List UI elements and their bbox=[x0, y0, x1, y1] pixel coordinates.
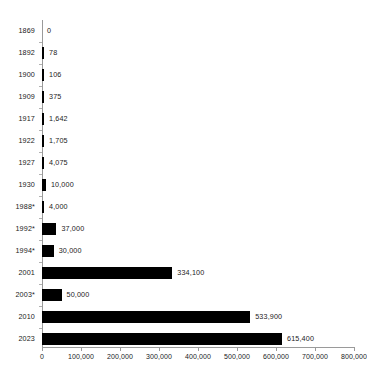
bar-value-label: 1,705 bbox=[49, 130, 68, 152]
x-axis-tick bbox=[159, 347, 160, 351]
bar-row: 2003*50,000 bbox=[42, 284, 354, 306]
category-label: 1869 bbox=[18, 20, 35, 42]
x-axis-tick bbox=[237, 347, 238, 351]
bar-row: 1992*37,000 bbox=[42, 218, 354, 240]
x-axis-tick bbox=[354, 347, 355, 351]
x-axis-tick-label: 100,000 bbox=[68, 353, 94, 360]
bar bbox=[42, 245, 54, 257]
x-axis-tick bbox=[120, 347, 121, 351]
x-axis-tick bbox=[276, 347, 277, 351]
bar bbox=[42, 311, 250, 323]
y-axis-tick bbox=[39, 284, 42, 285]
x-axis-tick-label: 200,000 bbox=[107, 353, 133, 360]
bar-row: 18690 bbox=[42, 20, 354, 42]
bar-value-label: 375 bbox=[49, 86, 61, 108]
bar-value-label: 0 bbox=[47, 20, 51, 42]
bar bbox=[42, 113, 44, 125]
x-axis-tick-label: 0 bbox=[40, 353, 44, 360]
bar-row: 2001334,100 bbox=[42, 262, 354, 284]
bar-row: 19171,642 bbox=[42, 108, 354, 130]
y-axis-tick bbox=[39, 130, 42, 131]
bar-value-label: 106 bbox=[49, 64, 61, 86]
x-axis-tick bbox=[81, 347, 82, 351]
x-axis-tick-label: 500,000 bbox=[224, 353, 250, 360]
category-label: 2010 bbox=[18, 306, 35, 328]
x-axis-tick-label: 600,000 bbox=[263, 353, 289, 360]
bar-value-label: 533,900 bbox=[255, 306, 282, 328]
category-label: 1922 bbox=[18, 130, 35, 152]
bar-value-label: 37,000 bbox=[61, 218, 84, 240]
category-label: 2023 bbox=[18, 328, 35, 350]
bar bbox=[42, 179, 46, 191]
y-axis-tick bbox=[39, 218, 42, 219]
category-label: 1994* bbox=[15, 240, 35, 262]
y-axis-tick bbox=[39, 108, 42, 109]
category-label: 1900 bbox=[18, 64, 35, 86]
bar-row: 19274,075 bbox=[42, 152, 354, 174]
x-axis-tick bbox=[42, 347, 43, 351]
bar-row: 193010,000 bbox=[42, 174, 354, 196]
y-axis-tick bbox=[39, 152, 42, 153]
bar-row: 2010533,900 bbox=[42, 306, 354, 328]
bar bbox=[42, 69, 44, 81]
category-label: 2003* bbox=[15, 284, 35, 306]
x-axis-tick-label: 400,000 bbox=[185, 353, 211, 360]
bar-value-label: 78 bbox=[49, 42, 57, 64]
bar-row: 1994*30,000 bbox=[42, 240, 354, 262]
y-axis-tick bbox=[39, 240, 42, 241]
bar-row: 1909375 bbox=[42, 86, 354, 108]
bar bbox=[42, 267, 172, 279]
category-label: 1992* bbox=[15, 218, 35, 240]
x-axis-tick-label: 800,000 bbox=[341, 353, 367, 360]
category-label: 1909 bbox=[18, 86, 35, 108]
bar-row: 189278 bbox=[42, 42, 354, 64]
y-axis-tick bbox=[39, 174, 42, 175]
category-label: 1930 bbox=[18, 174, 35, 196]
bar bbox=[42, 201, 44, 213]
bar bbox=[42, 289, 62, 301]
x-axis-tick-label: 700,000 bbox=[302, 353, 328, 360]
y-axis-tick bbox=[39, 86, 42, 87]
y-axis-tick bbox=[39, 196, 42, 197]
bar bbox=[42, 333, 282, 345]
bar-value-label: 30,000 bbox=[59, 240, 82, 262]
bar bbox=[42, 157, 44, 169]
y-axis-tick bbox=[39, 64, 42, 65]
y-axis-tick bbox=[39, 42, 42, 43]
bar-value-label: 50,000 bbox=[67, 284, 90, 306]
bar-value-label: 4,075 bbox=[49, 152, 68, 174]
category-label: 2001 bbox=[18, 262, 35, 284]
bar bbox=[42, 223, 56, 235]
bar-row: 1900106 bbox=[42, 64, 354, 86]
category-label: 1988* bbox=[15, 196, 35, 218]
bar-value-label: 334,100 bbox=[177, 262, 204, 284]
bar-value-label: 4,000 bbox=[49, 196, 68, 218]
y-axis-tick bbox=[39, 306, 42, 307]
bar-row: 1988*4,000 bbox=[42, 196, 354, 218]
x-axis-tick bbox=[198, 347, 199, 351]
y-axis-tick bbox=[39, 262, 42, 263]
bar-value-label: 10,000 bbox=[51, 174, 74, 196]
bar bbox=[42, 135, 44, 147]
category-label: 1917 bbox=[18, 108, 35, 130]
bar-value-label: 615,400 bbox=[287, 328, 314, 350]
x-axis-tick bbox=[315, 347, 316, 351]
y-axis-tick bbox=[39, 328, 42, 329]
x-axis-tick-label: 300,000 bbox=[146, 353, 172, 360]
bar-value-label: 1,642 bbox=[49, 108, 68, 130]
category-label: 1892 bbox=[18, 42, 35, 64]
bar bbox=[42, 91, 44, 103]
plot-area: 186901892781900106190937519171,64219221,… bbox=[42, 20, 354, 346]
category-label: 1927 bbox=[18, 152, 35, 174]
bar bbox=[42, 47, 44, 59]
bar-row: 19221,705 bbox=[42, 130, 354, 152]
